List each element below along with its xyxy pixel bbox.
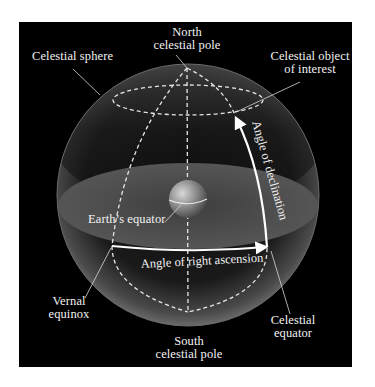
label-earths-equator: Earth’s equator <box>88 213 166 226</box>
label-line: Celestial sphere <box>32 50 113 63</box>
label-south-celestial-pole: South celestial pole <box>152 335 226 361</box>
label-line: celestial pole <box>152 39 222 52</box>
label-celestial-sphere: Celestial sphere <box>32 50 113 63</box>
label-line: celestial pole <box>152 348 226 361</box>
label-line: of interest <box>270 63 350 76</box>
label-line: equinox <box>44 308 94 321</box>
label-line: equator <box>262 327 324 340</box>
label-vernal-equinox: Vernal equinox <box>44 295 94 321</box>
label-line: Earth’s equator <box>88 213 166 226</box>
label-north-celestial-pole: North celestial pole <box>152 26 222 52</box>
leader-celestial-sphere <box>73 69 100 95</box>
earth <box>169 180 207 218</box>
label-celestial-equator: Celestial equator <box>262 314 324 340</box>
label-celestial-object: Celestial object of interest <box>270 50 350 76</box>
